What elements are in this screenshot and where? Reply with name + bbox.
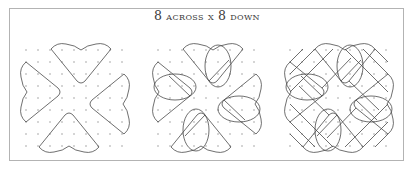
grid-dot	[301, 109, 302, 110]
grid-dot	[325, 121, 326, 122]
kolam-panel-step-2	[153, 44, 262, 153]
grid-dot	[205, 109, 206, 110]
grid-dot	[49, 97, 50, 98]
grid-dot	[385, 61, 386, 62]
grid-dot	[193, 133, 194, 134]
grid-dot	[205, 97, 206, 98]
grid-dot	[253, 109, 254, 110]
grid-dot	[253, 97, 254, 98]
grid-dot	[49, 121, 50, 122]
grid-dot	[157, 133, 158, 134]
grid-dot	[289, 109, 290, 110]
grid-dot	[181, 121, 182, 122]
grid-dot	[85, 145, 86, 146]
grid-dot	[229, 109, 230, 110]
grid-dot	[205, 121, 206, 122]
grid-dot	[325, 73, 326, 74]
grid-dot	[109, 61, 110, 62]
grid-dot	[253, 85, 254, 86]
grid-dot	[253, 73, 254, 74]
grid-dot	[121, 73, 122, 74]
grid-dot	[313, 97, 314, 98]
grid-dot	[73, 121, 74, 122]
grid-dot	[229, 133, 230, 134]
grid-dot	[37, 61, 38, 62]
fan-loop-shape	[51, 44, 111, 83]
grid-dot	[205, 49, 206, 50]
grid-dot	[361, 109, 362, 110]
grid-dot	[61, 145, 62, 146]
grid-dot	[205, 145, 206, 146]
grid-dot	[73, 133, 74, 134]
grid-dot	[193, 145, 194, 146]
grid-dot	[121, 133, 122, 134]
grid-dot	[25, 133, 26, 134]
grid-dot	[373, 97, 374, 98]
grid-dot	[241, 73, 242, 74]
grid-dot	[49, 145, 50, 146]
kolam-diagram	[0, 0, 414, 171]
grid-dot	[325, 145, 326, 146]
grid-dot	[229, 121, 230, 122]
grid-dot	[61, 133, 62, 134]
grid-dot	[349, 121, 350, 122]
grid-dot	[373, 109, 374, 110]
grid-dot	[37, 121, 38, 122]
grid-dot	[73, 73, 74, 74]
grid-dot	[193, 73, 194, 74]
grid-dot	[85, 61, 86, 62]
grid-dot	[169, 61, 170, 62]
grid-dot	[37, 49, 38, 50]
grid-dot	[325, 133, 326, 134]
grid-dot	[253, 61, 254, 62]
fan-loop-shape	[21, 62, 60, 122]
grid-dot	[61, 109, 62, 110]
grid-dot	[97, 109, 98, 110]
grid-dot	[349, 85, 350, 86]
grid-dot	[37, 133, 38, 134]
grid-dot	[241, 145, 242, 146]
fan-loop-shape	[39, 113, 99, 152]
grid-dot	[349, 145, 350, 146]
grid-dot	[337, 85, 338, 86]
grid-dot	[97, 97, 98, 98]
grid-dot	[385, 49, 386, 50]
grid-dot	[241, 133, 242, 134]
grid-dot	[289, 49, 290, 50]
grid-dot	[61, 121, 62, 122]
grid-dot	[109, 109, 110, 110]
grid-dot	[157, 145, 158, 146]
grid-dot	[229, 49, 230, 50]
grid-dot	[325, 49, 326, 50]
grid-dot	[157, 85, 158, 86]
grid-dot	[325, 85, 326, 86]
grid-dot	[37, 85, 38, 86]
grid-dot	[169, 85, 170, 86]
grid-dot	[181, 61, 182, 62]
grid-dot	[337, 145, 338, 146]
grid-dot	[97, 121, 98, 122]
grid-dot	[253, 121, 254, 122]
grid-dot	[25, 109, 26, 110]
grid-dot	[349, 49, 350, 50]
grid-dot	[85, 109, 86, 110]
grid-dot	[85, 85, 86, 86]
grid-dot	[37, 109, 38, 110]
grid-dot	[241, 97, 242, 98]
grid-dot	[313, 121, 314, 122]
grid-dot	[121, 97, 122, 98]
grid-dot	[373, 61, 374, 62]
grid-dot	[181, 145, 182, 146]
grid-dot	[121, 145, 122, 146]
grid-dot	[49, 49, 50, 50]
grid-dot	[73, 97, 74, 98]
grid-dot	[229, 85, 230, 86]
grid-dot	[37, 145, 38, 146]
grid-dot	[361, 133, 362, 134]
grid-dot	[85, 97, 86, 98]
grid-dot	[337, 49, 338, 50]
grid-dot	[385, 73, 386, 74]
grid-dot	[25, 49, 26, 50]
grid-dot	[217, 121, 218, 122]
grid-dot	[361, 49, 362, 50]
